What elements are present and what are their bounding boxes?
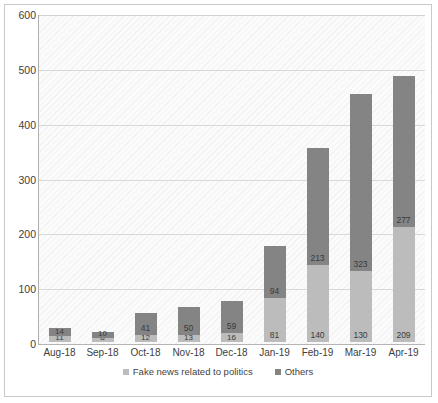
legend-item[interactable]: Fake news related to politics (123, 367, 253, 377)
bar-segment[interactable]: 14 (49, 328, 71, 336)
bar-segment[interactable]: 16 (221, 333, 243, 342)
table-row[interactable]: 130323 (350, 94, 372, 342)
bar-value-label: 323 (350, 260, 372, 269)
x-axis-tick-label: Dec-18 (209, 346, 255, 360)
x-axis-tick-label: Jan-19 (252, 346, 298, 360)
x-axis-tick-label: Aug-18 (37, 346, 83, 360)
bar-value-label: 213 (307, 254, 329, 263)
table-row[interactable]: 8194 (264, 246, 286, 342)
legend-swatch-icon (123, 369, 129, 375)
table-row[interactable]: 1350 (178, 307, 200, 342)
x-axis-tick-label: Mar-19 (338, 346, 384, 360)
y-axis-tick-label: 500 (6, 65, 36, 75)
bar-segment[interactable]: 81 (264, 298, 286, 342)
x-axis-tick-label: Oct-18 (123, 346, 169, 360)
bar-segment[interactable]: 213 (307, 148, 329, 265)
y-axis-tick-label: 300 (6, 175, 36, 185)
x-axis-tick-label: Apr-19 (381, 346, 427, 360)
y-axis-tick-label: 100 (6, 284, 36, 294)
bar-segment[interactable]: 140 (307, 265, 329, 342)
legend-label: Others (285, 367, 314, 377)
bar-value-label: 209 (393, 331, 415, 340)
bar-segment[interactable]: 94 (264, 246, 286, 298)
bar-segment[interactable]: 277 (393, 76, 415, 228)
bar-segment[interactable]: 12 (135, 335, 157, 342)
bar-value-label: 10 (92, 329, 114, 338)
bar-value-label: 81 (264, 331, 286, 340)
gridline (38, 15, 425, 16)
legend-item[interactable]: Others (275, 367, 314, 377)
bar-segment[interactable]: 209 (393, 227, 415, 342)
bar-segment[interactable]: 11 (49, 336, 71, 342)
bar-value-label: 14 (49, 327, 71, 336)
y-axis-tick-label: 400 (6, 120, 36, 130)
table-row[interactable]: 1241 (135, 313, 157, 342)
x-axis-tick-labels: Aug-18Sep-18Oct-18Nov-18Dec-18Jan-19Feb-… (38, 346, 425, 362)
chart-legend: Fake news related to politicsOthers (5, 367, 431, 377)
table-row[interactable]: 810 (92, 332, 114, 342)
bar-value-label: 41 (135, 324, 157, 333)
y-axis-tick-label: 0 (6, 339, 36, 349)
bar-value-label: 277 (393, 216, 415, 225)
bar-value-label: 140 (307, 331, 329, 340)
y-axis-line (38, 15, 39, 345)
bar-segment[interactable]: 13 (178, 335, 200, 342)
y-axis-tick-labels: 6005004003002001000 (5, 5, 36, 365)
table-row[interactable]: 1659 (221, 301, 243, 342)
bar-value-label: 130 (350, 331, 372, 340)
bar-segment[interactable]: 323 (350, 94, 372, 271)
bar-segment[interactable]: 130 (350, 271, 372, 342)
table-row[interactable]: 140213 (307, 148, 329, 342)
chart-frame: 6005004003002001000 11148101241135016598… (4, 4, 432, 397)
x-axis-line (38, 344, 425, 345)
legend-label: Fake news related to politics (133, 367, 253, 377)
y-axis-tick-label: 600 (6, 10, 36, 20)
bar-segment[interactable]: 50 (178, 307, 200, 334)
gridline (38, 70, 425, 71)
y-axis-tick-label: 200 (6, 229, 36, 239)
bar-value-label: 94 (264, 287, 286, 296)
bar-segment[interactable]: 59 (221, 301, 243, 333)
x-axis-tick-label: Sep-18 (80, 346, 126, 360)
table-row[interactable]: 209277 (393, 76, 415, 342)
bar-value-label: 16 (221, 333, 243, 342)
legend-swatch-icon (275, 369, 281, 375)
table-row[interactable]: 1114 (49, 328, 71, 342)
bar-value-label: 59 (221, 322, 243, 331)
x-axis-tick-label: Feb-19 (295, 346, 341, 360)
bar-segment[interactable]: 41 (135, 313, 157, 335)
bar-value-label: 50 (178, 324, 200, 333)
x-axis-tick-label: Nov-18 (166, 346, 212, 360)
bar-segment[interactable]: 8 (92, 338, 114, 342)
bar-segment[interactable]: 10 (92, 332, 114, 337)
